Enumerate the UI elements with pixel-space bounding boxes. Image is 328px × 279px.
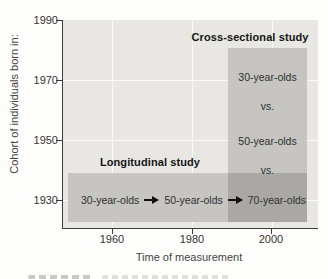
y-axis-title: Cohort of individuals born in: xyxy=(8,34,20,173)
longitudinal-item: 70-year-olds xyxy=(248,194,306,206)
x-axis-line xyxy=(62,228,318,229)
x-axis-title: Time of measurement xyxy=(136,251,243,263)
caption-smudge xyxy=(102,275,232,279)
longitudinal-item: 30-year-olds xyxy=(81,194,139,206)
caption-smudge xyxy=(28,275,94,279)
study-design-figure: 1990 1970 1950 1930 1960 1980 2000 Cohor… xyxy=(0,0,328,279)
right-arrow-icon xyxy=(228,196,243,204)
cross-sectional-item: 50-year-olds xyxy=(228,135,307,147)
longitudinal-study-title: Longitudinal study xyxy=(85,156,215,168)
cross-sectional-vs: vs. xyxy=(228,164,307,176)
y-axis-line xyxy=(62,20,63,229)
y-tick-label: 1950 xyxy=(28,134,58,146)
longitudinal-sequence: 30-year-olds 50-year-olds 70-year-olds xyxy=(81,193,306,207)
x-tick-label: 1960 xyxy=(92,233,132,245)
y-tick-label: 1970 xyxy=(28,74,58,86)
right-arrow-icon xyxy=(144,196,159,204)
y-tick-label: 1990 xyxy=(28,14,58,26)
x-tick-label: 2000 xyxy=(251,233,291,245)
cross-sectional-item: 30-year-olds xyxy=(228,71,307,83)
longitudinal-item: 50-year-olds xyxy=(164,194,222,206)
y-tick-label: 1930 xyxy=(28,194,58,206)
cross-sectional-vs: vs. xyxy=(228,100,307,112)
x-tick-label: 1980 xyxy=(172,233,212,245)
cross-sectional-study-title: Cross-sectional study xyxy=(185,31,315,43)
